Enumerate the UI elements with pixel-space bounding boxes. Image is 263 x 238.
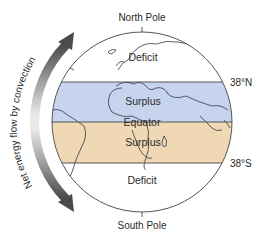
deficit-south-label: Deficit bbox=[127, 174, 156, 186]
deficit-north-label: Deficit bbox=[128, 51, 157, 63]
energy-budget-diagram: Net energy flow by convection bbox=[0, 0, 263, 238]
lat-38s-label: 38°S bbox=[230, 158, 252, 169]
surplus-south-label: Surplus bbox=[125, 136, 161, 148]
lat-38n-label: 38°N bbox=[230, 77, 252, 88]
north-pole-label: North Pole bbox=[118, 12, 166, 23]
south-pole-label: South Pole bbox=[118, 220, 167, 231]
surplus-north-label: Surplus bbox=[125, 95, 161, 107]
equator-label: Equator bbox=[124, 116, 161, 128]
